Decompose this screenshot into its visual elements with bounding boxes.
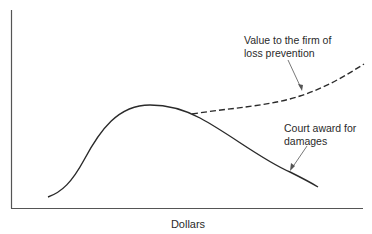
loss-prevention-value-curve <box>192 64 364 114</box>
x-axis-label: Dollars <box>0 218 372 231</box>
court-award-curve <box>48 105 318 197</box>
court-label-arrow <box>290 146 307 171</box>
loss-prevention-value-label-line-2: loss prevention <box>244 47 331 60</box>
court-award-label-line-1: Court award for <box>284 122 356 135</box>
loss-prevention-value-label: Value to the firm of loss prevention <box>244 34 331 60</box>
court-award-label: Court award for damages <box>284 122 356 148</box>
loss-prevention-diagram: Value to the firm of loss prevention Cou… <box>0 0 372 234</box>
loss-prevention-value-label-line-1: Value to the firm of <box>244 34 331 47</box>
court-award-label-line-2: damages <box>284 135 356 148</box>
value-label-arrow <box>288 60 303 91</box>
